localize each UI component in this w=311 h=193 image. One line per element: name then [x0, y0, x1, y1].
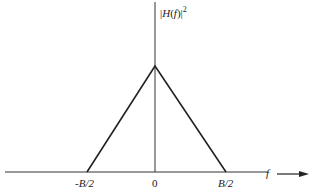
diagram-canvas: |H(f)|2 -B/2 0 B/2 f [0, 0, 311, 193]
y-axis-label: |H(f)|2 [160, 5, 187, 19]
arrow-right-icon [299, 171, 309, 177]
tick-label-zero: 0 [152, 177, 158, 189]
triangle-curve [87, 66, 226, 172]
tick-label-neg-b-half: -B/2 [75, 177, 94, 189]
x-axis-label: f [266, 167, 269, 179]
tick-label-b-half: B/2 [218, 177, 233, 189]
triangle-spectrum-plot [0, 0, 311, 193]
